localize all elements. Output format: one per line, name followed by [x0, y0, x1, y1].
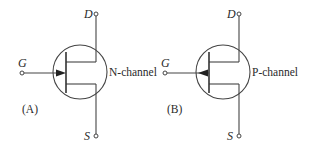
drain-label: D	[83, 7, 93, 21]
arrow-out-icon	[198, 70, 208, 77]
jfet-p-channel-symbol: D G S P-channel (B)	[161, 7, 298, 143]
gate-label: G	[18, 56, 27, 70]
jfet-n-channel-symbol: D G S N-channel (A)	[18, 7, 157, 143]
panel-label: (B)	[167, 103, 183, 116]
gate-terminal	[163, 71, 167, 75]
panel-label: (A)	[22, 103, 38, 116]
drain-label: D	[226, 7, 236, 21]
channel-type-label: N-channel	[109, 66, 157, 78]
source-label: S	[227, 129, 233, 143]
gate-label: G	[161, 56, 170, 70]
drain-terminal	[94, 12, 98, 16]
gate-terminal	[20, 71, 24, 75]
source-terminal	[94, 134, 98, 138]
channel-type-label: P-channel	[252, 66, 298, 78]
source-label: S	[84, 129, 90, 143]
source-terminal	[237, 134, 241, 138]
arrow-in-icon	[56, 70, 66, 77]
jfet-symbols-diagram: D G S N-channel (A) D G S P-channel (B)	[0, 0, 318, 147]
drain-terminal	[237, 12, 241, 16]
